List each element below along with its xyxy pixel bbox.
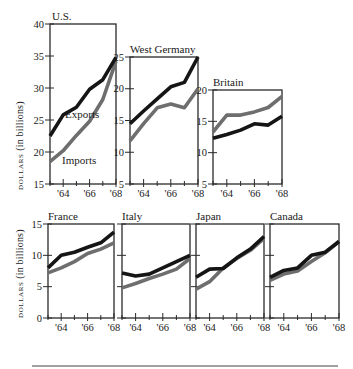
y-tick-label: 5 [202, 179, 207, 190]
series-annotation: Imports [62, 154, 96, 166]
x-tick-label: '68 [258, 322, 270, 333]
x-tick-label: '64 [55, 322, 68, 333]
x-tick-label: '66 [248, 188, 260, 199]
y-axis-label-bottom-dollars: DOLLARS [17, 282, 25, 318]
x-tick-label: '64 [57, 188, 70, 199]
exports-line [270, 242, 339, 278]
x-tick-label: '64 [221, 188, 234, 199]
panel-italy: Italy'64'66'68 [117, 210, 196, 333]
x-tick-label: '64 [137, 188, 150, 199]
y-tick-label: 20 [114, 83, 125, 94]
panel-france: France051015'64'66'68 [32, 210, 121, 333]
imports-line [122, 259, 190, 288]
x-tick-label: '66 [81, 322, 93, 333]
y-axis-label-top-units: (in billions) [14, 101, 25, 153]
y-tick-label: 10 [32, 250, 43, 261]
x-tick-label: '66 [165, 188, 177, 199]
y-tick-label: 25 [114, 52, 125, 63]
x-tick-label: '64 [278, 322, 291, 333]
x-tick-label: '68 [333, 322, 345, 333]
panel-u-s: U.S.152025303540'64'66'68ExportsImports [34, 10, 123, 199]
panel-title: Britain [213, 76, 244, 88]
x-tick-label: '66 [305, 322, 317, 333]
y-tick-label: 10 [197, 147, 208, 158]
panel-title: Canada [270, 210, 303, 222]
y-axis-label-bottom-units: (in billions) [14, 229, 25, 281]
y-tick-label: 15 [197, 116, 208, 127]
y-tick-label: 15 [34, 179, 45, 190]
y-axis-label-top: DOLLARS (in billions) [14, 101, 25, 190]
x-tick-label: '68 [192, 188, 204, 199]
y-tick-label: 20 [197, 85, 208, 96]
y-tick-label: 30 [34, 83, 45, 94]
x-tick-label: '64 [129, 322, 142, 333]
exports-line [50, 57, 116, 136]
panel-west-germany: West Germany510152025'64'66'68 [114, 43, 205, 199]
y-axis-label-top-dollars: DOLLARS [17, 154, 25, 190]
x-tick-label: '66 [231, 322, 243, 333]
panel-title: U.S. [52, 10, 72, 22]
y-tick-label: 10 [114, 147, 125, 158]
panel-title: France [48, 210, 78, 222]
exports-line [48, 232, 114, 268]
panel-canada: Canada'64'66'68 [265, 210, 345, 333]
x-tick-label: '68 [110, 188, 122, 199]
exports-line [130, 57, 198, 124]
x-tick-label: '64 [203, 322, 216, 333]
y-tick-label: 0 [37, 313, 42, 324]
y-tick-label: 20 [34, 147, 45, 158]
y-tick-label: 5 [119, 179, 124, 190]
y-tick-label: 15 [32, 219, 43, 230]
panel-title: Italy [122, 210, 143, 222]
x-tick-label: '66 [83, 188, 95, 199]
trade-charts: U.S.152025303540'64'66'68ExportsImportsW… [0, 0, 353, 369]
exports-line [196, 237, 264, 278]
x-tick-label: '66 [157, 322, 169, 333]
x-tick-label: '68 [184, 322, 196, 333]
y-tick-label: 35 [34, 51, 45, 62]
y-tick-label: 5 [37, 281, 42, 292]
panel-japan: Japan'64'66'68 [191, 210, 270, 333]
series-annotation: Exports [65, 108, 99, 120]
y-tick-label: 25 [34, 115, 45, 126]
panel-britain: Britain5101520'64'66'68 [197, 76, 289, 199]
y-tick-label: 15 [114, 115, 125, 126]
panel-title: West Germany [130, 43, 196, 55]
y-tick-label: 40 [34, 19, 45, 30]
y-axis-label-bottom: DOLLARS (in billions) [14, 229, 25, 318]
x-tick-label: '68 [108, 322, 120, 333]
x-tick-label: '68 [276, 188, 288, 199]
panel-title: Japan [196, 210, 222, 222]
